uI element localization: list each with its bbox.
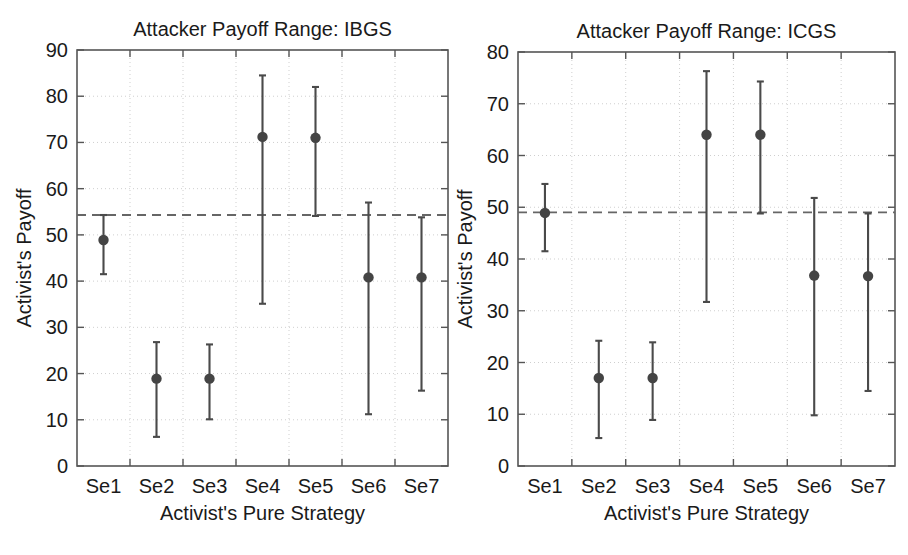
- y-axis-title: Activist's Payoff: [13, 188, 35, 327]
- y-tick-label: 80: [487, 41, 509, 63]
- data-point-marker[interactable]: [310, 133, 320, 143]
- x-tick-label: Se1: [86, 475, 122, 497]
- data-point-marker[interactable]: [98, 235, 108, 245]
- x-tick-label: Se5: [743, 475, 779, 497]
- data-point-marker[interactable]: [701, 130, 711, 140]
- y-tick-label: 20: [46, 363, 68, 385]
- x-tick-label: Se3: [192, 475, 228, 497]
- x-tick-label: Se6: [796, 475, 832, 497]
- y-tick-label: 30: [487, 300, 509, 322]
- chart-panel-ibgs: Attacker Payoff Range: IBGS0102030405060…: [0, 0, 454, 555]
- y-axis-title: Activist's Payoff: [454, 189, 476, 328]
- data-point-marker[interactable]: [540, 208, 550, 218]
- y-tick-label: 50: [46, 224, 68, 246]
- chart-svg-ibgs: Attacker Payoff Range: IBGS0102030405060…: [0, 0, 454, 555]
- chart-title: Attacker Payoff Range: ICGS: [577, 20, 837, 42]
- chart-panel-icgs: Attacker Payoff Range: ICGS0102030405060…: [454, 0, 908, 555]
- data-point-marker[interactable]: [363, 272, 373, 282]
- x-tick-label: Se3: [635, 475, 671, 497]
- y-tick-label: 10: [46, 409, 68, 431]
- y-tick-label: 40: [46, 270, 68, 292]
- y-tick-label: 40: [487, 248, 509, 270]
- data-series: [540, 71, 874, 438]
- y-tick-label: 60: [487, 145, 509, 167]
- data-point-marker[interactable]: [151, 373, 161, 383]
- x-tick-label: Se6: [351, 475, 387, 497]
- y-tick-label: 80: [46, 85, 68, 107]
- x-tick-label: Se7: [850, 475, 886, 497]
- data-point-marker[interactable]: [809, 270, 819, 280]
- y-tick-label: 70: [46, 131, 68, 153]
- x-tick-label: Se5: [298, 475, 334, 497]
- y-tick-label: 70: [487, 93, 509, 115]
- data-series: [98, 75, 426, 436]
- chart-title: Attacker Payoff Range: IBGS: [133, 18, 392, 40]
- y-tick-label: 60: [46, 178, 68, 200]
- y-tick-label: 30: [46, 316, 68, 338]
- y-tick-label: 20: [487, 352, 509, 374]
- figure-container: Attacker Payoff Range: IBGS0102030405060…: [0, 0, 908, 555]
- chart-svg-icgs: Attacker Payoff Range: ICGS0102030405060…: [454, 0, 908, 555]
- data-point-marker[interactable]: [755, 130, 765, 140]
- data-point-marker[interactable]: [863, 271, 873, 281]
- x-tick-label: Se2: [581, 475, 617, 497]
- data-point-marker[interactable]: [257, 132, 267, 142]
- x-tick-label: Se7: [404, 475, 440, 497]
- y-tick-label: 50: [487, 196, 509, 218]
- y-axis: 0102030405060708090: [46, 39, 448, 477]
- data-point-marker[interactable]: [647, 373, 657, 383]
- y-tick-label: 90: [46, 39, 68, 61]
- y-tick-label: 0: [498, 455, 509, 477]
- x-tick-label: Se4: [689, 475, 725, 497]
- x-tick-label: Se4: [245, 475, 281, 497]
- x-axis-title: Activist's Pure Strategy: [604, 502, 809, 524]
- data-point-marker[interactable]: [594, 373, 604, 383]
- x-axis-title: Activist's Pure Strategy: [160, 502, 365, 524]
- y-tick-label: 0: [57, 455, 68, 477]
- y-tick-label: 10: [487, 403, 509, 425]
- x-tick-label: Se2: [139, 475, 175, 497]
- data-point-marker[interactable]: [204, 373, 214, 383]
- data-point-marker[interactable]: [416, 272, 426, 282]
- x-tick-label: Se1: [527, 475, 563, 497]
